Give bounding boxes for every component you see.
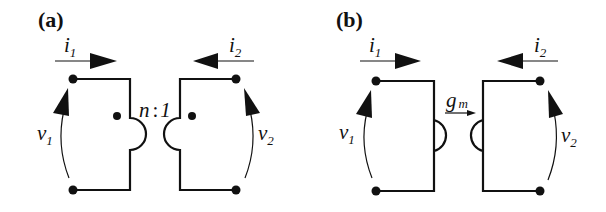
label-v1-b: v1 <box>339 120 355 147</box>
secondary-winding-a <box>164 79 236 190</box>
gyrator-port2 <box>483 81 540 191</box>
arrowhead-up-icon <box>53 88 69 116</box>
panel-a-transformer: (a) i1 i2 n:1 v1 <box>37 7 274 195</box>
terminal-dot <box>536 77 545 86</box>
arrowhead-right-icon <box>395 53 421 69</box>
panel-b-gyrator: (b) i1 i2 gm <box>336 7 577 196</box>
panel-b-label: (b) <box>336 7 363 32</box>
terminal-dot <box>232 75 241 84</box>
current-arrow-i1-a: i1 <box>55 33 117 69</box>
label-v2-a: v2 <box>258 121 274 148</box>
arrowhead-left-icon <box>193 53 218 69</box>
arrowhead-up-icon <box>356 90 372 118</box>
two-port-diagram: (a) i1 i2 n:1 v1 <box>0 0 606 212</box>
voltage-arrow-v1-a: v1 <box>37 88 69 178</box>
gyrator-port1-semicircle <box>434 120 446 151</box>
gyrator-port1 <box>376 81 434 191</box>
terminal-dot <box>372 77 381 86</box>
current-arrow-i2-b: i2 <box>497 33 558 69</box>
current-arrow-i1-b: i1 <box>360 33 421 69</box>
polarity-dot-primary <box>113 112 121 120</box>
arrowhead-right-icon <box>467 110 476 116</box>
label-v1-a: v1 <box>37 121 53 148</box>
arrowhead-left-icon <box>497 53 523 69</box>
current-arrow-i2-a: i2 <box>193 33 254 69</box>
label-v2-b: v2 <box>561 123 577 150</box>
terminal-dot <box>536 187 545 196</box>
terminal-dot <box>69 75 78 84</box>
voltage-arrow-v2-a: v2 <box>244 88 274 178</box>
primary-winding-a <box>73 79 146 190</box>
label-i1-b: i1 <box>369 33 381 60</box>
terminal-dot <box>232 186 241 195</box>
turns-ratio-label: n:1 <box>139 98 171 122</box>
label-i2-a: i2 <box>229 33 242 60</box>
label-i1-a: i1 <box>64 33 76 60</box>
gm-label: gm <box>446 88 468 112</box>
terminal-dot <box>372 187 381 196</box>
polarity-dot-secondary <box>188 112 196 120</box>
label-i2-b: i2 <box>534 33 547 60</box>
gyration-conductance: gm <box>445 88 476 116</box>
voltage-arrow-v2-b: v2 <box>548 90 577 180</box>
arrowhead-up-icon <box>244 88 260 116</box>
arrowhead-up-icon <box>548 90 563 118</box>
terminal-dot <box>69 186 78 195</box>
voltage-arrow-v1-b: v1 <box>339 90 372 178</box>
arrowhead-right-icon <box>90 53 117 69</box>
gyrator-port2-semicircle <box>471 120 483 151</box>
panel-a-label: (a) <box>38 7 64 32</box>
